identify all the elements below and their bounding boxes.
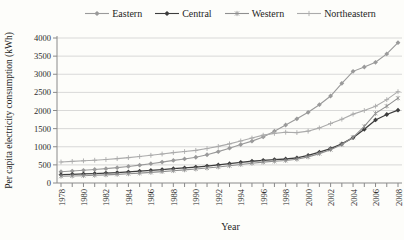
y-axis: 05001000150020002500300035004000 — [34, 33, 57, 188]
x-tick-label: 2004 — [349, 188, 359, 206]
y-axis-title: Per capita electricity consumption (kWh) — [4, 16, 17, 206]
y-tick-label: 3000 — [34, 69, 51, 79]
y-tick-label: 4000 — [34, 33, 51, 43]
chart-plot: 0500100015002000250030003500400019781980… — [0, 0, 404, 240]
y-tick-label: 500 — [38, 160, 51, 170]
series-northeastern — [59, 89, 401, 164]
x-tick-label: 1998 — [281, 189, 291, 206]
x-tick-label: 2002 — [326, 189, 336, 206]
x-tick-label: 1992 — [214, 189, 224, 206]
x-tick-label: 1996 — [259, 189, 269, 206]
series-western — [59, 96, 400, 179]
chart-figure: EasternCentralWesternNortheastern 050010… — [0, 0, 404, 240]
x-axis-title: Year — [57, 221, 404, 232]
x-tick-label: 1984 — [124, 188, 134, 206]
y-tick-label: 3500 — [34, 51, 51, 61]
y-tick-label: 0 — [47, 178, 51, 188]
x-tick-label: 1988 — [169, 189, 179, 206]
y-tick-label: 2000 — [34, 106, 51, 116]
x-tick-label: 1978 — [57, 189, 67, 206]
x-tick-label: 1980 — [79, 189, 89, 206]
x-tick-label: 2000 — [304, 189, 314, 206]
x-tick-label: 1982 — [101, 189, 111, 206]
x-tick-label: 1994 — [236, 188, 246, 206]
x-tick-label: 2006 — [371, 189, 381, 206]
series-eastern — [59, 40, 401, 174]
x-tick-label: 2008 — [394, 189, 404, 206]
x-tick-label: 1990 — [191, 189, 201, 206]
x-axis: 1978198019821984198619881990199219941996… — [57, 183, 404, 206]
y-tick-label: 1500 — [34, 124, 51, 134]
x-tick-label: 1986 — [146, 189, 156, 206]
y-tick-label: 1000 — [34, 142, 51, 152]
y-tick-label: 2500 — [34, 87, 51, 97]
